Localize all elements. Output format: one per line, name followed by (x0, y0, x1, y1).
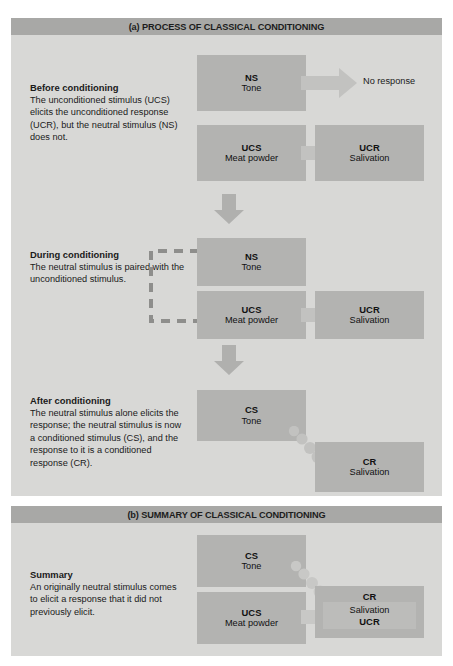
box-ucs-before-label: UCS (242, 142, 262, 154)
box-ucs-before: UCS Meat powder (197, 125, 306, 181)
box-ns-before-label: NS (245, 72, 258, 84)
caption-before-title: Before conditioning (30, 81, 185, 94)
box-ucr-during: UCR Salivation (315, 291, 424, 339)
box-ucs-summary: UCS Meat powder (197, 592, 306, 644)
panel-a-header: (a) PROCESS OF CLASSICAL CONDITIONING (11, 18, 442, 35)
panel-b-title: (b) SUMMARY OF CLASSICAL CONDITIONING (127, 510, 325, 520)
arrow-down-during-to-after (214, 345, 244, 375)
panel-process: (a) PROCESS OF CLASSICAL CONDITIONING Be… (11, 18, 442, 496)
box-ucr-before-sub: Salivation (350, 153, 390, 165)
box-ns-before: NS Tone (197, 55, 306, 111)
caption-before-body: The unconditioned stimulus (UCS) elicits… (30, 94, 185, 144)
box-ucs-before-sub: Meat powder (225, 153, 278, 165)
stage-after-conditioning: After conditioning The neutral stimulus … (11, 376, 442, 496)
panel-b-header: (b) SUMMARY OF CLASSICAL CONDITIONING (11, 506, 442, 523)
box-cr-after-label: CR (363, 456, 377, 468)
box-ucr-summary-label: UCR (359, 616, 379, 627)
arrow-down-before-to-during (214, 194, 244, 224)
dashed-pairing-bracket (141, 247, 201, 325)
box-ns-during-sub: Tone (242, 262, 262, 274)
caption-summary-title: Summary (30, 568, 185, 581)
box-ucs-during-sub: Meat powder (225, 315, 278, 327)
panel-a-title: (a) PROCESS OF CLASSICAL CONDITIONING (129, 22, 325, 32)
stage-before-conditioning: Before conditioning The unconditioned st… (11, 35, 442, 199)
box-cr-after: CR Salivation (315, 442, 424, 492)
box-ucr-during-sub: Salivation (350, 315, 390, 327)
stage-during-conditioning: During conditioning The neutral stimulus… (11, 225, 442, 350)
box-ucs-summary-label: UCS (242, 607, 262, 619)
box-cs-after-sub: Tone (242, 416, 262, 428)
box-ucs-during: UCS Meat powder (197, 291, 306, 339)
caption-before: Before conditioning The unconditioned st… (30, 81, 185, 144)
box-cr-after-sub: Salivation (350, 467, 390, 479)
box-cs-summary-sub: Tone (242, 561, 262, 573)
box-ns-during: NS Tone (197, 238, 306, 286)
box-ucr-summary-inner: Salivation UCR (323, 602, 416, 629)
box-cs-after-label: CS (245, 404, 258, 416)
caption-summary-body: An originally neutral stimulus comes to … (30, 581, 185, 618)
box-ucs-during-label: UCS (242, 304, 262, 316)
box-ns-before-sub: Tone (242, 83, 262, 95)
caption-after-title: After conditioning (30, 394, 185, 407)
box-cs-summary-label: CS (245, 550, 258, 562)
panel-summary: (b) SUMMARY OF CLASSICAL CONDITIONING Su… (11, 506, 442, 656)
arrow-ns-to-no-response (301, 68, 357, 98)
box-ucr-during-label: UCR (359, 304, 379, 316)
box-ns-during-label: NS (245, 251, 258, 263)
caption-after-body: The neutral stimulus alone elicits the r… (30, 407, 185, 469)
box-ucs-summary-sub: Meat powder (225, 618, 278, 630)
box-ucr-before: UCR Salivation (315, 125, 424, 181)
figure-root: (a) PROCESS OF CLASSICAL CONDITIONING Be… (0, 0, 453, 666)
box-ucr-summary-sub: Salivation (350, 605, 390, 616)
caption-summary: Summary An originally neutral stimulus c… (30, 568, 185, 618)
box-cr-summary-label: CR (363, 591, 377, 603)
label-no-response: No response (363, 76, 415, 87)
caption-after: After conditioning The neutral stimulus … (30, 394, 185, 469)
box-ucr-before-label: UCR (359, 142, 379, 154)
